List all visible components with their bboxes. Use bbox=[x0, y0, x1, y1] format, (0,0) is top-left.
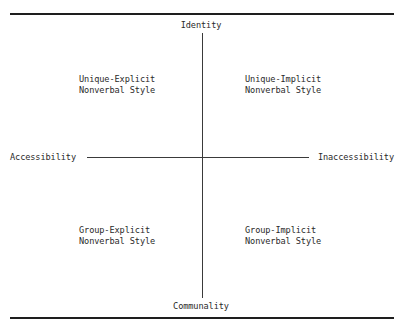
quadrant-subtitle: Nonverbal Style bbox=[79, 85, 155, 96]
quadrant-title: Unique-Implicit bbox=[245, 74, 321, 85]
quadrant-title: Group-Explicit bbox=[79, 225, 155, 236]
axis-label-communality: Communality bbox=[0, 301, 402, 312]
quadrant-unique-explicit: Unique-Explicit Nonverbal Style bbox=[79, 74, 155, 96]
quadrant-subtitle: Nonverbal Style bbox=[79, 236, 155, 247]
vertical-axis-line bbox=[202, 33, 203, 298]
quadrant-unique-implicit: Unique-Implicit Nonverbal Style bbox=[245, 74, 321, 96]
bottom-rule bbox=[10, 317, 394, 319]
axis-label-accessibility: Accessibility bbox=[10, 152, 76, 163]
quadrant-subtitle: Nonverbal Style bbox=[245, 236, 321, 247]
quadrant-title: Group-Implicit bbox=[245, 225, 321, 236]
quadrant-group-implicit: Group-Implicit Nonverbal Style bbox=[245, 225, 321, 247]
quadrant-group-explicit: Group-Explicit Nonverbal Style bbox=[79, 225, 155, 247]
quadrant-subtitle: Nonverbal Style bbox=[245, 85, 321, 96]
quadrant-title: Unique-Explicit bbox=[79, 74, 155, 85]
axis-label-inaccessibility: Inaccessibility bbox=[318, 152, 394, 163]
axis-label-identity: Identity bbox=[0, 20, 402, 31]
horizontal-axis-line bbox=[87, 157, 309, 158]
top-rule bbox=[10, 13, 394, 15]
